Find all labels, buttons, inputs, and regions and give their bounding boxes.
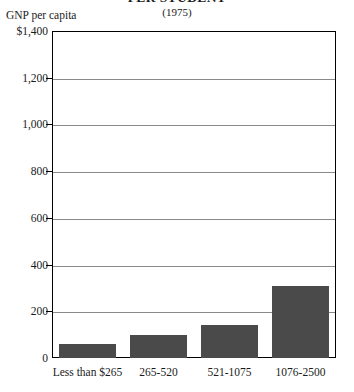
y-tick-label: 400	[0, 259, 48, 271]
y-tick-label: 200	[0, 305, 48, 317]
y-axis-label: GNP per capita	[6, 8, 76, 22]
y-tick-label: 600	[0, 212, 48, 224]
x-tick-label: 521-1075	[194, 366, 265, 379]
x-tick-label: 265-520	[123, 366, 194, 379]
bar	[59, 344, 116, 358]
bar	[201, 325, 258, 358]
bars-group	[52, 31, 336, 358]
bar	[272, 286, 329, 358]
chart-container: PER STUDENT (1975) GNP per capita 020040…	[0, 0, 354, 392]
y-tick-label: $1,400	[0, 25, 48, 37]
y-tick-label: 1,000	[0, 118, 48, 130]
y-tick-label: 800	[0, 165, 48, 177]
y-tick-label: 1,200	[0, 72, 48, 84]
x-tick-label: 1076-2500	[265, 366, 336, 379]
bar	[130, 335, 187, 358]
x-tick-label: Less than $265	[52, 366, 123, 379]
y-tick-label: 0	[0, 352, 48, 364]
